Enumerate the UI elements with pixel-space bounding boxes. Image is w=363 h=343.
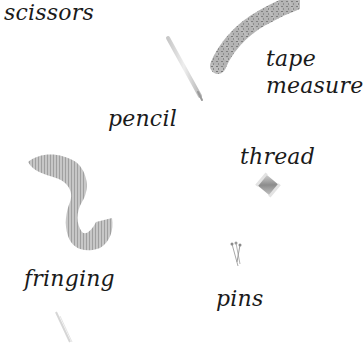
fringing-icon: [20, 150, 130, 255]
scissors-icon: [50, 310, 90, 343]
label-pins: pins: [216, 288, 263, 310]
thread-spool-icon: [254, 172, 284, 202]
label-measure: measure: [266, 75, 363, 97]
tape-measure-icon: [210, 0, 300, 75]
label-thread: thread: [240, 146, 315, 168]
label-pencil: pencil: [108, 108, 177, 130]
pins-icon: [226, 240, 250, 270]
label-scissors: scissors: [4, 2, 94, 24]
pencil-icon: [160, 30, 210, 105]
label-fringing: fringing: [24, 268, 115, 290]
